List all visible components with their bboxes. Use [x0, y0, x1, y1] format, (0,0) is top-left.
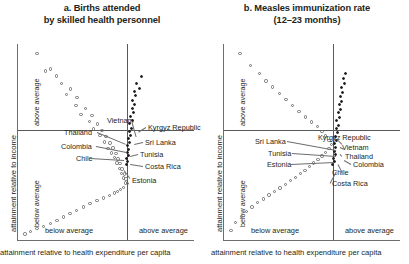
- point-label-estonia: Estonia: [132, 176, 156, 185]
- panel-b-plot-area: above average below average below averag…: [223, 44, 400, 241]
- point-label-colombia: Colombia: [353, 160, 384, 169]
- label-leader-line: [291, 162, 334, 165]
- figure-two-panel-scatter: a. Births attended by skilled health per…: [0, 0, 409, 264]
- point-label-thailand: Thailand: [64, 128, 92, 137]
- panel-b-title: b. Measles immunization rate (12–23 mont…: [205, 3, 409, 26]
- panel-a-plot-area: above average below average below averag…: [17, 44, 194, 241]
- label-leader-line: [138, 127, 147, 133]
- panel-a-title: a. Births attended by skilled health per…: [0, 3, 204, 26]
- panel-a-x-axis-title: attainment relative to health expenditur…: [0, 248, 171, 257]
- point-label-kyrgyz-republic: Kyrgyz Republic: [318, 133, 371, 142]
- label-leader-line: [130, 164, 143, 167]
- panel-b: b. Measles immunization rate (12–23 mont…: [205, 0, 409, 264]
- label-leader-line: [124, 170, 131, 179]
- point-label-costa-rica: Costa Rica: [145, 162, 181, 171]
- point-label-sri-lanka: Sri Lanka: [145, 138, 176, 147]
- point-label-tunisia: Tunisia: [140, 150, 163, 159]
- panel-b-x-axis-title: attainment relative to health expenditur…: [211, 248, 382, 257]
- label-leader-line: [287, 141, 336, 151]
- label-leader-line: [90, 158, 124, 161]
- point-label-colombia: Colombia: [61, 142, 92, 151]
- label-leader-line: [134, 142, 143, 145]
- panel-b-title-line1: b. Measles immunization rate: [244, 3, 370, 13]
- point-label-costa-rica: Costa Rica: [332, 179, 368, 188]
- point-label-tunisia: Tunisia: [268, 149, 291, 158]
- label-leader-line: [130, 154, 138, 157]
- point-label-kyrgyz-republic: Kyrgyz Republic: [148, 123, 201, 132]
- panel-b-title-line2: (12–23 months): [274, 15, 341, 25]
- panel-a-point-labels: ThailandVietnamKyrgyz RepublicColombiaSr…: [18, 44, 194, 240]
- point-label-estonia: Estonia: [267, 160, 291, 169]
- panel-a-title-line1: a. Births attended: [64, 3, 141, 13]
- point-label-sri-lanka: Sri Lanka: [255, 137, 286, 146]
- label-leader-line: [132, 122, 137, 136]
- label-leader-line: [292, 153, 336, 157]
- label-leader-line: [340, 154, 343, 157]
- panel-b-point-labels: Sri LankaKyrgyz RepublicTunisiaVietnamTh…: [224, 44, 400, 240]
- panel-a: a. Births attended by skilled health per…: [0, 0, 204, 264]
- panel-a-title-line2: by skilled health personnel: [44, 15, 161, 25]
- label-leader-line: [97, 132, 126, 145]
- label-leader-line: [96, 146, 126, 153]
- point-label-vietnam: Vietnam: [342, 143, 369, 152]
- point-label-vietnam: Vietnam: [107, 116, 134, 125]
